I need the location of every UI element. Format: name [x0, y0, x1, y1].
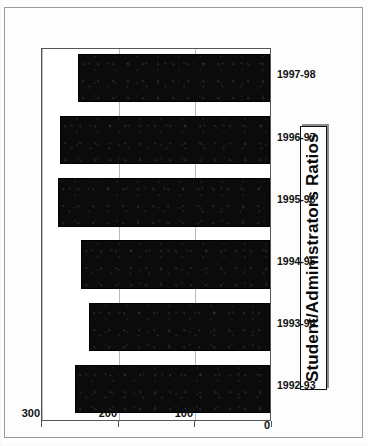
category-axis-label: 1993-94 [277, 317, 316, 329]
chart-rotation-container: Student/Administrators Ratios 0100200300… [0, 0, 368, 446]
chart-figure: Student/Administrators Ratios 0100200300… [0, 0, 368, 446]
value-axis-label: 100 [175, 407, 193, 419]
rotated-figure-wrapper: Student/Administrators Ratios 0100200300… [0, 0, 368, 446]
bar [60, 116, 270, 164]
axis-tick [271, 421, 272, 427]
value-axis-label: 200 [98, 407, 116, 419]
bar [58, 178, 270, 226]
gridline [42, 49, 43, 420]
value-axis-label: 0 [264, 419, 270, 431]
category-axis-label: 1996-97 [277, 131, 316, 143]
bar [89, 303, 270, 351]
axis-tick [194, 421, 195, 427]
plot-area [41, 48, 271, 421]
category-axis-label: 1995-96 [277, 193, 316, 205]
bar [78, 54, 270, 102]
scanned-page: Student/Administrators Ratios 0100200300… [0, 0, 368, 446]
value-axis-label: 300 [22, 407, 40, 419]
axis-tick [41, 421, 42, 427]
bar [81, 240, 270, 288]
category-axis-label: 1992-93 [277, 379, 316, 391]
category-axis-label: 1994-95 [277, 255, 316, 267]
axis-tick [118, 421, 119, 427]
category-axis-label: 1997-98 [277, 68, 316, 80]
